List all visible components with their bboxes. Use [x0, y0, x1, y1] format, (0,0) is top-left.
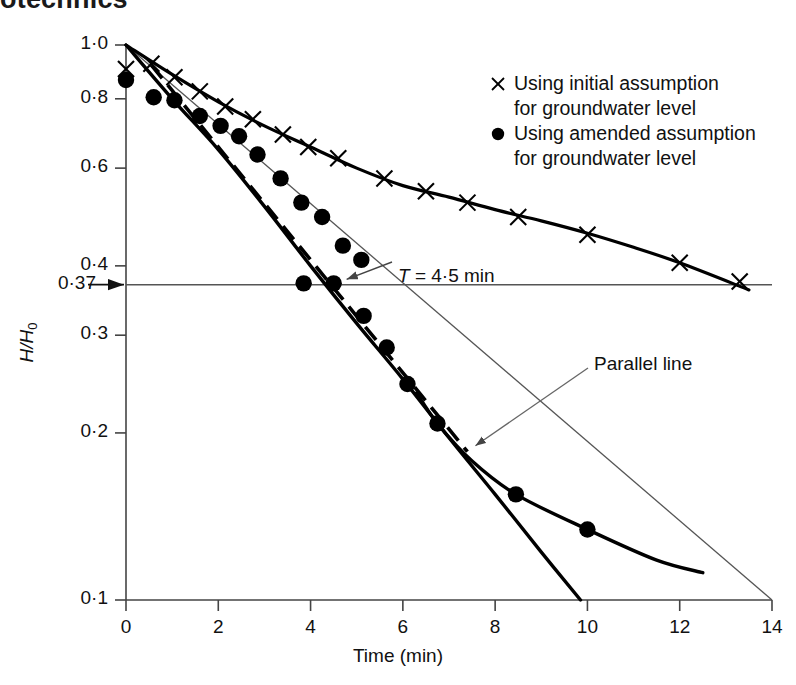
data-point-circle	[335, 237, 351, 253]
data-point-circle	[353, 252, 369, 268]
data-point-circle	[272, 170, 288, 186]
data-point-circle	[231, 128, 247, 144]
data-point-circle	[355, 308, 371, 324]
x-tick-label: 14	[742, 616, 796, 638]
y-tick-label: 1·0	[26, 32, 108, 54]
cross-marker-icon	[488, 74, 508, 94]
data-point-circle	[166, 92, 182, 108]
x-axis-title: Time (min)	[0, 645, 796, 667]
data-point-circle	[192, 108, 208, 124]
y-tick-label: 0·6	[26, 155, 108, 177]
data-point-circle	[579, 521, 595, 537]
data-point-circle	[295, 275, 311, 291]
data-point-circle	[212, 118, 228, 134]
y-axis-title-sub: 0	[25, 322, 40, 329]
data-point-circle	[429, 415, 445, 431]
data-point-cross	[192, 83, 208, 99]
legend-entry-initial-line1: Using initial assumption	[514, 72, 719, 95]
figure-semilog-plot: 1·00·80·60·40·30·20·10·37 02468101214 Ti…	[0, 0, 796, 685]
legend-entry-amended-line2: for groundwater level	[488, 147, 788, 172]
data-point-circle	[508, 486, 524, 502]
data-point-circle	[293, 194, 309, 210]
filled-circle-marker-icon	[488, 124, 508, 144]
y-tick-label-037: 0·37	[0, 272, 96, 294]
legend-entry-initial: Using initial assumption	[488, 72, 788, 97]
data-point-cross	[217, 98, 233, 114]
x-tick-label: 2	[188, 616, 248, 638]
t-value-leader-line	[347, 262, 392, 279]
data-point-circle	[314, 209, 330, 225]
x-tick-label: 6	[373, 616, 433, 638]
data-point-cross	[275, 126, 291, 142]
parallel-line-leader	[475, 368, 588, 446]
annotation-parallel-line: Parallel line	[594, 353, 692, 375]
x-tick-marks	[126, 600, 772, 611]
x-tick-label: 0	[96, 616, 156, 638]
data-point-circle	[145, 89, 161, 105]
legend-entry-amended: Using amended assumption	[488, 122, 788, 147]
x-tick-label: 4	[281, 616, 341, 638]
legend-entry-amended-line1: Using amended assumption	[514, 122, 756, 145]
x-tick-label: 8	[465, 616, 525, 638]
data-point-cross	[672, 255, 688, 271]
y-axis-title: H/H0	[16, 302, 41, 382]
annotation-t-symbol: T	[398, 265, 410, 286]
y-tick-marks	[115, 45, 126, 600]
y-tick-label: 0·8	[26, 86, 108, 108]
y-tick-label: 0·2	[26, 420, 108, 442]
data-point-cross	[166, 69, 182, 85]
data-point-circle	[249, 146, 265, 162]
chart-legend: Using initial assumption for groundwater…	[488, 72, 788, 172]
annotation-t-value: T = 4·5 min	[398, 265, 495, 287]
legend-entry-initial-line2: for groundwater level	[488, 97, 788, 122]
curve-amended-assumption-tail	[417, 393, 703, 573]
annotation-t-rest: = 4·5 min	[410, 265, 495, 286]
data-point-circle	[379, 339, 395, 355]
data-point-circle	[325, 275, 341, 291]
x-tick-label: 10	[557, 616, 617, 638]
data-point-cross	[245, 111, 261, 127]
data-point-circle	[399, 376, 415, 392]
y-axis-title-main: H/H	[16, 330, 37, 363]
data-point-circle	[118, 72, 134, 88]
x-tick-label: 12	[650, 616, 710, 638]
y-tick-label: 0·1	[26, 587, 108, 609]
